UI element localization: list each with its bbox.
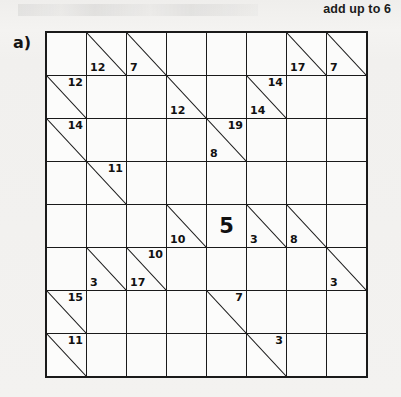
down-clue: 3 bbox=[250, 234, 258, 245]
clue-cell-r5c6: 3 bbox=[247, 205, 287, 248]
entry-cell-r3c3[interactable] bbox=[127, 119, 167, 162]
clue-cell-r1c8: 7 bbox=[327, 32, 368, 76]
grid-row: 12121414 bbox=[46, 76, 367, 119]
blocked-cell-r5c3 bbox=[127, 205, 167, 248]
clue-cell-r1c3: 7 bbox=[127, 32, 167, 76]
clue-cell-r6c3: 1017 bbox=[127, 248, 167, 291]
blocked-cell-r4c7 bbox=[287, 162, 327, 205]
entry-cell-r7c2[interactable] bbox=[87, 291, 127, 334]
entry-cell-r8c3[interactable] bbox=[127, 334, 167, 378]
grid-row: 14198 bbox=[46, 119, 367, 162]
clue-cell-r3c5: 198 bbox=[207, 119, 247, 162]
down-clue: 7 bbox=[330, 62, 338, 73]
entry-cell-r4c5[interactable] bbox=[207, 162, 247, 205]
across-clue: 11 bbox=[108, 163, 123, 174]
across-clue: 14 bbox=[68, 120, 83, 131]
entry-cell-r8c7[interactable] bbox=[287, 334, 327, 378]
grid-row: 113 bbox=[46, 334, 367, 378]
entry-cell-r7c7[interactable] bbox=[287, 291, 327, 334]
caption-text: add up to 6 bbox=[323, 2, 391, 16]
panel-label: a) bbox=[13, 33, 31, 52]
blocked-cell-r8c4 bbox=[167, 334, 207, 378]
across-clue: 10 bbox=[148, 249, 163, 260]
entry-cell-r6c4[interactable] bbox=[167, 248, 207, 291]
blocked-cell-r5c1 bbox=[46, 205, 87, 248]
entry-cell-r7c8[interactable] bbox=[327, 291, 368, 334]
entry-cell-r3c2[interactable] bbox=[87, 119, 127, 162]
down-clue: 12 bbox=[170, 105, 185, 116]
entry-cell-r3c4[interactable] bbox=[167, 119, 207, 162]
down-clue: 3 bbox=[90, 277, 98, 288]
clue-cell-r4c2: 11 bbox=[87, 162, 127, 205]
clue-cell-r8c6: 3 bbox=[247, 334, 287, 378]
across-clue: 19 bbox=[228, 120, 243, 131]
across-clue: 12 bbox=[68, 77, 83, 88]
blocked-cell-r6c1 bbox=[46, 248, 87, 291]
across-clue: 7 bbox=[235, 292, 243, 303]
grid-row: 11 bbox=[46, 162, 367, 205]
across-clue: 11 bbox=[68, 335, 83, 346]
across-clue: 15 bbox=[68, 292, 83, 303]
kakuro-grid-container: 12717712121414141981110538310173157113 bbox=[45, 31, 368, 378]
clue-cell-r5c4: 10 bbox=[167, 205, 207, 248]
entry-cell-r6c5[interactable] bbox=[207, 248, 247, 291]
entry-cell-r7c3[interactable] bbox=[127, 291, 167, 334]
entry-cell-r2c2[interactable] bbox=[87, 76, 127, 119]
blocked-cell-r4c8 bbox=[327, 162, 368, 205]
entry-cell-r7c6[interactable] bbox=[247, 291, 287, 334]
clue-cell-r3c1: 14 bbox=[46, 119, 87, 162]
blocked-cell-r2c5 bbox=[207, 76, 247, 119]
entry-cell-r3c8[interactable] bbox=[327, 119, 368, 162]
clue-cell-r1c2: 12 bbox=[87, 32, 127, 76]
given-value: 5 bbox=[207, 205, 246, 247]
down-clue: 7 bbox=[130, 62, 138, 73]
blocked-cell-r8c5 bbox=[207, 334, 247, 378]
down-clue: 10 bbox=[170, 234, 185, 245]
clue-cell-r6c8: 3 bbox=[327, 248, 368, 291]
entry-cell-r6c6[interactable] bbox=[247, 248, 287, 291]
clue-cell-r6c2: 3 bbox=[87, 248, 127, 291]
blocked-cell-r1c6 bbox=[247, 32, 287, 76]
across-clue: 3 bbox=[275, 335, 283, 346]
blocked-cell-r5c2 bbox=[87, 205, 127, 248]
clue-cell-r1c7: 17 bbox=[287, 32, 327, 76]
entry-cell-r4c3[interactable] bbox=[127, 162, 167, 205]
grid-row: 10538 bbox=[46, 205, 367, 248]
entry-cell-r2c8[interactable] bbox=[327, 76, 368, 119]
entry-cell-r4c4[interactable] bbox=[167, 162, 207, 205]
clue-cell-r2c6: 1414 bbox=[247, 76, 287, 119]
entry-cell-r3c7[interactable] bbox=[287, 119, 327, 162]
entry-cell-r8c8[interactable] bbox=[327, 334, 368, 378]
clue-cell-r8c1: 11 bbox=[46, 334, 87, 378]
clue-cell-r2c1: 12 bbox=[46, 76, 87, 119]
clue-cell-r7c1: 15 bbox=[46, 291, 87, 334]
down-clue: 8 bbox=[210, 148, 218, 159]
down-clue: 17 bbox=[290, 62, 305, 73]
blocked-cell-r1c4 bbox=[167, 32, 207, 76]
given-cell-r5c5[interactable]: 5 bbox=[207, 205, 247, 248]
entry-cell-r7c4[interactable] bbox=[167, 291, 207, 334]
entry-cell-r6c7[interactable] bbox=[287, 248, 327, 291]
down-clue: 14 bbox=[250, 105, 265, 116]
down-clue: 3 bbox=[330, 277, 338, 288]
down-clue: 17 bbox=[130, 277, 145, 288]
down-clue: 8 bbox=[290, 234, 298, 245]
blocked-cell-r5c8 bbox=[327, 205, 368, 248]
entry-cell-r2c7[interactable] bbox=[287, 76, 327, 119]
clue-cell-r7c5: 7 bbox=[207, 291, 247, 334]
grid-row: 157 bbox=[46, 291, 367, 334]
kakuro-grid: 12717712121414141981110538310173157113 bbox=[45, 31, 368, 378]
down-clue: 12 bbox=[90, 62, 105, 73]
grid-row: 310173 bbox=[46, 248, 367, 291]
entry-cell-r8c2[interactable] bbox=[87, 334, 127, 378]
clue-cell-r5c7: 8 bbox=[287, 205, 327, 248]
entry-cell-r2c3[interactable] bbox=[127, 76, 167, 119]
blocked-cell-r4c1 bbox=[46, 162, 87, 205]
blocked-cell-r1c1 bbox=[46, 32, 87, 76]
entry-cell-r4c6[interactable] bbox=[247, 162, 287, 205]
blocked-cell-r1c5 bbox=[207, 32, 247, 76]
across-clue: 14 bbox=[268, 77, 283, 88]
entry-cell-r3c6[interactable] bbox=[247, 119, 287, 162]
grid-row: 127177 bbox=[46, 32, 367, 76]
faint-background-text bbox=[18, 4, 258, 16]
